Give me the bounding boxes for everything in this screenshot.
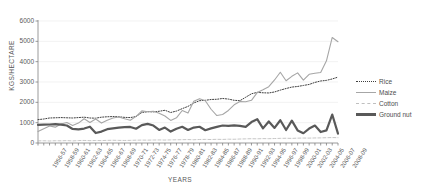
x-axis-title: YEARS [0, 176, 360, 183]
legend-item-rice[interactable]: Rice [356, 76, 432, 87]
y-tick-label: 2000 [8, 98, 34, 105]
y-tick-label: 3000 [8, 78, 34, 85]
legend-swatch-icon [356, 100, 376, 108]
crop-yield-line-chart: KGS/HECTARE YEARS 0100020003000400050006… [0, 0, 432, 193]
legend-label: Ground nut [379, 111, 412, 118]
legend-item-maize[interactable]: Maize [356, 87, 432, 98]
legend-swatch-icon [356, 111, 376, 119]
y-tick-label: 1000 [8, 119, 34, 126]
legend-item-ground-nut[interactable]: Ground nut [356, 109, 432, 120]
legend-item-cotton[interactable]: Cotton [356, 98, 432, 109]
chart-legend: RiceMaizeCottonGround nut [356, 76, 432, 120]
legend-label: Cotton [379, 100, 398, 107]
legend-swatch-icon [356, 78, 376, 86]
y-tick-label: 0 [8, 139, 34, 146]
series-line-cotton [38, 138, 338, 141]
y-tick-label: 5000 [8, 37, 34, 44]
y-tick-label: 6000 [8, 17, 34, 24]
legend-label: Maize [379, 89, 396, 96]
legend-swatch-icon [356, 89, 376, 97]
y-tick-label: 4000 [8, 58, 34, 65]
legend-label: Rice [379, 78, 392, 85]
